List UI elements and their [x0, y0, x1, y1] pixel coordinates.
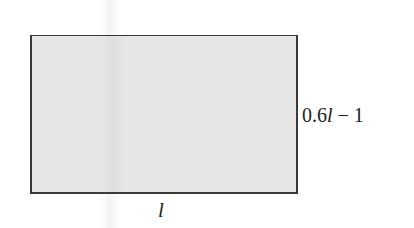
rectangle — [30, 35, 298, 194]
height-label-constant: − 1 — [333, 104, 364, 126]
height-label-coefficient: 0.6 — [302, 104, 327, 126]
rectangle-shading-band — [102, 36, 124, 192]
height-label: 0.6l − 1 — [302, 103, 364, 127]
length-label: l — [158, 198, 164, 222]
